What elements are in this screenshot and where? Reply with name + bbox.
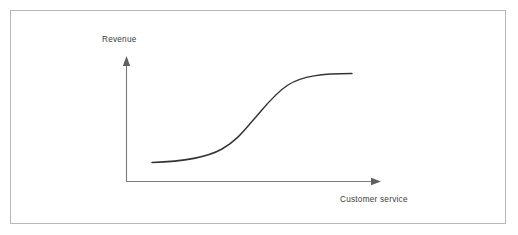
arrow-right-icon [371,178,381,185]
revenue-sigmoid-curve [152,74,352,163]
x-axis-label: Customer service [340,196,408,204]
arrow-up-icon [123,56,130,66]
chart-plot-area [0,0,518,235]
y-axis-label: Revenue [102,36,137,44]
figure-root: Revenue Customer service [0,0,518,235]
